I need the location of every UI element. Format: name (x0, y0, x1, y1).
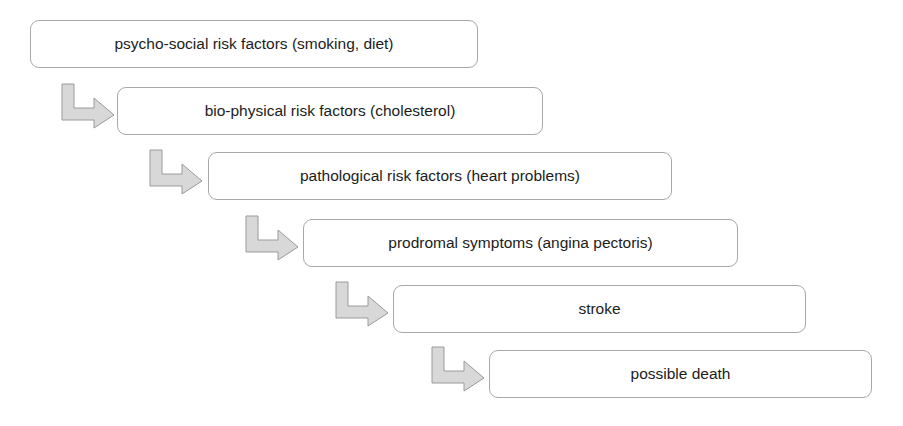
elbow-arrow-3 (244, 216, 300, 260)
flow-step-stroke: stroke (393, 285, 806, 333)
flow-step-bio-physical-risk-factors: bio-physical risk factors (cholesterol) (117, 87, 543, 135)
flowchart-canvas: psycho-social risk factors (smoking, die… (0, 0, 903, 426)
flow-step-label: psycho-social risk factors (smoking, die… (104, 35, 403, 54)
elbow-arrow-4 (334, 282, 390, 326)
flow-step-label: stroke (568, 300, 630, 319)
flow-step-label: bio-physical risk factors (cholesterol) (195, 102, 466, 121)
flow-step-pathological-risk-factors: pathological risk factors (heart problem… (208, 152, 672, 200)
flow-step-label: pathological risk factors (heart problem… (290, 167, 590, 186)
flow-step-label: possible death (621, 365, 741, 384)
elbow-arrow-1 (60, 84, 116, 128)
flow-step-label: prodromal symptoms (angina pectoris) (378, 234, 662, 253)
flow-step-prodromal-symptoms: prodromal symptoms (angina pectoris) (303, 219, 738, 267)
flow-step-possible-death: possible death (489, 350, 872, 398)
elbow-arrow-2 (148, 150, 204, 194)
flow-step-psycho-social-risk-factors: psycho-social risk factors (smoking, die… (30, 20, 478, 68)
elbow-arrow-5 (430, 347, 486, 391)
